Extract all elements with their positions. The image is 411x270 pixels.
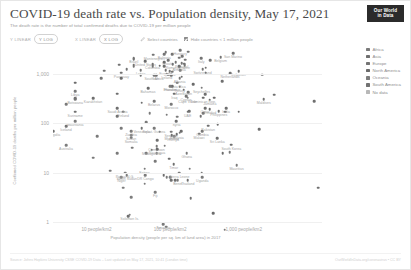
scatter-point[interactable] xyxy=(175,120,178,123)
scatter-point[interactable] xyxy=(217,110,220,113)
scatter-point[interactable] xyxy=(207,124,210,127)
scatter-point[interactable] xyxy=(140,127,143,130)
scatter-point[interactable] xyxy=(167,59,170,62)
scatter-point[interactable] xyxy=(178,65,181,68)
legend-item-europe[interactable]: Europe xyxy=(366,61,401,66)
scatter-point[interactable] xyxy=(164,144,167,147)
scatter-point[interactable] xyxy=(65,144,68,147)
scatter-point[interactable] xyxy=(216,137,219,140)
scatter-point[interactable] xyxy=(178,56,181,59)
scatter-point[interactable] xyxy=(96,135,99,138)
scatter-point[interactable] xyxy=(170,134,173,137)
scatter-point[interactable] xyxy=(273,93,276,96)
scatter-point[interactable] xyxy=(201,176,204,179)
scatter-point[interactable] xyxy=(192,83,195,86)
scatter-point[interactable] xyxy=(186,96,189,99)
x-axis-scale-toggle[interactable]: X LINEAR X LOG xyxy=(75,34,123,44)
scatter-point[interactable] xyxy=(103,70,106,73)
scatter-point[interactable] xyxy=(74,90,77,93)
scatter-point[interactable] xyxy=(151,65,154,68)
scatter-point[interactable] xyxy=(230,143,233,146)
scatter-point[interactable] xyxy=(158,64,161,67)
scatter-point[interactable] xyxy=(118,63,121,66)
scatter-point[interactable] xyxy=(178,77,181,80)
scatter-point[interactable] xyxy=(156,148,159,151)
scatter-point[interactable] xyxy=(65,125,68,128)
scatter-point[interactable] xyxy=(181,55,184,58)
scatter-point[interactable] xyxy=(116,152,119,155)
scatter-point[interactable] xyxy=(235,164,238,167)
scatter-point[interactable] xyxy=(116,107,119,110)
scatter-point[interactable] xyxy=(74,97,77,100)
scatter-point[interactable] xyxy=(120,127,123,130)
scatter-point[interactable] xyxy=(232,52,235,55)
scatter-point[interactable] xyxy=(221,152,224,155)
scatter-point[interactable] xyxy=(180,130,183,133)
scatter-point[interactable] xyxy=(204,107,207,110)
scatter-point[interactable] xyxy=(120,77,123,80)
scatter-point[interactable] xyxy=(74,111,77,114)
scatter-point[interactable] xyxy=(109,169,112,172)
scatter-point[interactable] xyxy=(201,130,204,133)
scatter-point[interactable] xyxy=(204,66,207,69)
scatter-point[interactable] xyxy=(164,69,167,72)
footer-license[interactable]: OurWorldInData.org/coronavirus • CC BY xyxy=(335,258,401,262)
scatter-point[interactable] xyxy=(209,108,212,111)
legend-item-no-data[interactable]: No data xyxy=(366,90,401,95)
scatter-point[interactable] xyxy=(116,115,119,118)
scatter-point[interactable] xyxy=(125,68,128,71)
scatter-point[interactable] xyxy=(169,85,172,88)
scatter-point[interactable] xyxy=(212,212,215,215)
scatter-point[interactable] xyxy=(170,179,173,182)
scatter-point[interactable] xyxy=(144,174,147,177)
scatter-point[interactable] xyxy=(163,61,166,64)
scatter-point[interactable] xyxy=(199,115,202,118)
scatter-point[interactable] xyxy=(225,107,228,110)
scatter-point[interactable] xyxy=(186,179,189,182)
owid-logo[interactable]: Our World in Data xyxy=(367,5,404,22)
y-log-button[interactable]: Y LOG xyxy=(34,34,58,44)
scatter-point[interactable] xyxy=(125,174,128,177)
scatter-point[interactable] xyxy=(189,197,192,200)
scatter-point[interactable] xyxy=(130,130,133,133)
scatter-point[interactable] xyxy=(237,70,240,73)
scatter-point[interactable] xyxy=(175,133,178,136)
scatter-point[interactable] xyxy=(139,69,142,72)
scatter-point[interactable] xyxy=(92,156,95,159)
scatter-point[interactable] xyxy=(209,59,212,62)
select-countries-button[interactable]: Select countries xyxy=(140,37,178,42)
scatter-point[interactable] xyxy=(144,60,147,63)
scatter-point[interactable] xyxy=(163,65,166,68)
scatter-point[interactable] xyxy=(132,57,135,60)
scatter-point[interactable] xyxy=(152,54,155,57)
scatter-point[interactable] xyxy=(228,151,231,154)
scatter-point[interactable] xyxy=(147,87,150,90)
scatter-point[interactable] xyxy=(170,103,173,106)
scatter-point[interactable] xyxy=(53,130,54,133)
legend-item-asia[interactable]: Asia xyxy=(366,54,401,59)
scatter-point[interactable] xyxy=(171,53,174,56)
legend-item-oceania[interactable]: Oceania xyxy=(366,75,401,80)
scatter-point[interactable] xyxy=(153,127,156,130)
scatter-point[interactable] xyxy=(74,120,77,123)
y-axis-scale-toggle[interactable]: Y LINEAR Y LOG xyxy=(10,34,58,44)
scatter-point[interactable] xyxy=(74,81,77,84)
scatter-point[interactable] xyxy=(213,96,216,99)
scatter-point[interactable] xyxy=(100,77,103,80)
scatter-point[interactable] xyxy=(174,61,177,64)
scatter-point[interactable] xyxy=(130,136,133,139)
scatter-point[interactable] xyxy=(188,167,191,170)
scatter-point[interactable] xyxy=(172,163,175,166)
scatter-point[interactable] xyxy=(176,115,179,118)
footer-source[interactable]: Source: Johns Hopkins University CSSE CO… xyxy=(10,258,187,263)
scatter-point[interactable] xyxy=(92,97,95,100)
legend-item-north-america[interactable]: North America xyxy=(366,68,401,73)
scatter-point[interactable] xyxy=(140,101,143,104)
legend-item-south-america[interactable]: South America xyxy=(366,82,401,87)
scatter-point[interactable] xyxy=(154,160,157,163)
scatter-point[interactable] xyxy=(176,179,179,182)
scatter-point[interactable] xyxy=(128,214,131,217)
scatter-point[interactable] xyxy=(170,130,173,133)
scatter-point[interactable] xyxy=(165,113,168,116)
scatter-point[interactable] xyxy=(130,196,133,199)
